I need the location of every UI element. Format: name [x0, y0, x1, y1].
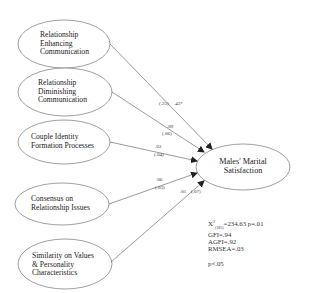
- label-similarity: Similarity on Values & Personality Chara…: [32, 252, 94, 278]
- label-line: Satisfaction: [206, 166, 280, 175]
- label-line: Communication: [38, 96, 87, 105]
- se-cif: (.04): [154, 152, 164, 157]
- se-rdc: (.06): [162, 131, 172, 136]
- coef-cri: .06: [156, 177, 162, 182]
- gfi-value: GFI=.94: [208, 231, 264, 238]
- label-line: Communication: [40, 48, 89, 57]
- significance-note: p<.05: [208, 260, 224, 267]
- se-cri: (.03): [155, 185, 165, 190]
- label-line: Males' Marital: [206, 157, 280, 166]
- agfi-value: AGFI=.92: [208, 238, 264, 245]
- se-svp: (.07): [191, 189, 201, 194]
- label-relationship-diminishing: Relationship Diminishing Communication: [38, 79, 87, 105]
- fit-statistics: X2(185)=234.63 p=.01 GFI=.94 AGFI=.92 RM…: [208, 218, 264, 252]
- chi-square-line: X2(185)=234.63 p=.01: [208, 218, 264, 231]
- label-couple-identity: Couple Identity Formation Processes: [31, 133, 94, 150]
- label-line: Characteristics: [32, 269, 94, 278]
- coef-rdc: .09: [167, 124, 173, 129]
- coef-rec: .43*: [174, 101, 183, 106]
- path-rec-to-mms: [110, 44, 212, 149]
- label-relationship-enhancing: Relationship Enhancing Communication: [40, 31, 89, 57]
- label-line: Formation Processes: [31, 142, 94, 151]
- coef-svp: .01: [180, 189, 186, 194]
- label-consensus: Consensus on Relationship Issues: [31, 195, 90, 212]
- rmsea-value: RMSEA=.03: [208, 245, 264, 252]
- se-rec: (.25): [159, 101, 169, 106]
- coef-cif: .03: [155, 144, 161, 149]
- path-rdc-to-mms: [112, 92, 204, 152]
- chi-square-value: =234.63 p=.01: [224, 220, 264, 227]
- chi-square-df: (185): [215, 225, 224, 230]
- label-males-marital-satisfaction: Males' Marital Satisfaction: [206, 157, 280, 176]
- chi-square-sup: 2: [213, 219, 215, 224]
- label-line: Relationship Issues: [31, 204, 90, 213]
